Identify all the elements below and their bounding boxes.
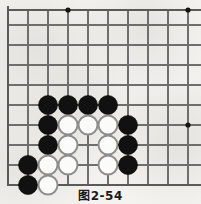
stone-black-4: [39, 116, 58, 135]
stone-white-5: [59, 116, 78, 135]
stone-white-7: [99, 116, 118, 135]
stone-white-15: [59, 156, 78, 175]
star-point-0: [65, 7, 70, 12]
stone-white-10: [59, 136, 78, 155]
stone-white-16: [99, 156, 118, 175]
star-point-1: [185, 7, 190, 12]
stone-black-13: [19, 156, 38, 175]
stone-black-3: [99, 96, 118, 115]
figure-page: 图2-54: [0, 0, 201, 204]
stone-black-17: [119, 156, 138, 175]
go-board: [0, 0, 201, 204]
figure-caption: 图2-54: [0, 189, 201, 204]
stone-black-8: [119, 116, 138, 135]
star-point-2: [185, 122, 190, 127]
stone-black-2: [79, 96, 98, 115]
stone-white-11: [99, 136, 118, 155]
stone-black-1: [59, 96, 78, 115]
stone-black-0: [39, 96, 58, 115]
stone-white-14: [39, 156, 58, 175]
stone-black-9: [39, 136, 58, 155]
stone-white-6: [79, 116, 98, 135]
stone-black-12: [119, 136, 138, 155]
